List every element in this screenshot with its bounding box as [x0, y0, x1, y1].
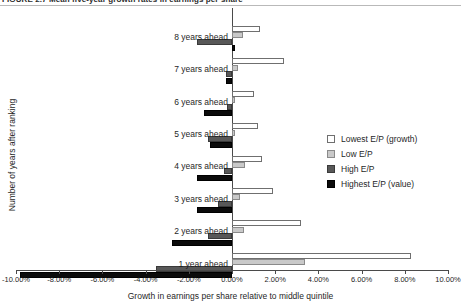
bar: [232, 259, 305, 265]
x-axis-tick: [102, 270, 103, 274]
bar: [232, 188, 273, 194]
bar: [232, 91, 254, 97]
bar: [232, 123, 258, 129]
bar: [204, 110, 232, 116]
legend-label: Lowest E/P (growth): [341, 134, 417, 144]
legend-label: Highest E/P (value): [341, 179, 414, 189]
x-axis-tick-label: 0.00%: [221, 275, 242, 284]
legend-item[interactable]: Lowest E/P (growth): [327, 131, 457, 146]
category-label: 2 years ahead: [120, 226, 228, 236]
bar: [232, 130, 235, 136]
legend-item[interactable]: High E/P: [327, 161, 457, 176]
bar: [172, 240, 232, 246]
category-label: 7 years ahead: [120, 64, 228, 74]
x-axis-tick: [16, 270, 17, 274]
legend-swatch-icon: [327, 180, 335, 188]
category-label: 1 year ahead: [120, 259, 228, 269]
x-axis-tick: [275, 270, 276, 274]
x-axis-tick-label: -4.00%: [134, 275, 158, 284]
x-axis-tick-label: -2.00%: [177, 275, 201, 284]
x-axis-tick-label: -6.00%: [91, 275, 115, 284]
x-axis-tick: [405, 270, 406, 274]
legend-label: High E/P: [341, 164, 375, 174]
category-label: 3 years ahead: [120, 194, 228, 204]
category-label: 4 years ahead: [120, 161, 228, 171]
bar: [232, 227, 244, 233]
x-axis-tick: [448, 270, 449, 274]
y-axis-label: Number of years after ranking: [7, 60, 17, 250]
category-label: 8 years ahead: [120, 32, 228, 42]
x-axis-tick-label: 8.00%: [394, 275, 415, 284]
bar-group: 2 years ahead: [0, 220, 461, 246]
bar: [232, 45, 235, 51]
bar: [232, 194, 240, 200]
category-label: 5 years ahead: [120, 129, 228, 139]
legend-swatch-icon: [327, 135, 335, 143]
bar: [232, 26, 260, 32]
legend-item[interactable]: Low E/P: [327, 146, 457, 161]
x-axis-tick: [362, 270, 363, 274]
x-axis-tick: [318, 270, 319, 274]
bar: [232, 253, 411, 259]
bar-group: 8 years ahead: [0, 26, 461, 52]
x-axis-label: Growth in earnings per share relative to…: [0, 291, 461, 301]
x-axis-tick-label: -10.00%: [2, 275, 30, 284]
legend-item[interactable]: Highest E/P (value): [327, 176, 457, 191]
figure-caption: FIGURE 2.7 Mean five-year growth rates i…: [2, 0, 243, 4]
x-axis-tick-label: 10.00%: [435, 275, 460, 284]
legend-swatch-icon: [327, 150, 335, 158]
x-axis-tick-label: 6.00%: [351, 275, 372, 284]
x-axis-tick-label: 4.00%: [308, 275, 329, 284]
category-label: 6 years ahead: [120, 97, 228, 107]
bar-group: 3 years ahead: [0, 188, 461, 214]
x-axis-tick-label: -8.00%: [47, 275, 71, 284]
bar: [232, 58, 284, 64]
bar: [232, 220, 301, 226]
bar: [210, 142, 232, 148]
bar: [232, 32, 243, 38]
x-axis-tick: [232, 270, 233, 274]
x-axis-tick: [146, 270, 147, 274]
bar: [232, 162, 245, 168]
legend: Lowest E/P (growth)Low E/PHigh E/PHighes…: [327, 131, 457, 191]
x-axis-tick: [189, 270, 190, 274]
bar: [232, 97, 235, 103]
figure-page: FIGURE 2.7 Mean five-year growth rates i…: [0, 0, 461, 307]
bar: [232, 156, 262, 162]
legend-swatch-icon: [327, 165, 335, 173]
legend-label: Low E/P: [341, 149, 373, 159]
bar: [197, 175, 232, 181]
x-axis-tick-label: 2.00%: [265, 275, 286, 284]
bar-group: 7 years ahead: [0, 58, 461, 84]
x-axis: -10.00%-8.00%-6.00%-4.00%-2.00%0.00%2.00…: [0, 270, 461, 290]
caption-divider: [0, 5, 461, 6]
bar: [232, 65, 238, 71]
bar: [226, 78, 232, 84]
bar: [197, 207, 232, 213]
x-axis-tick: [59, 270, 60, 274]
bar-group: 6 years ahead: [0, 91, 461, 117]
